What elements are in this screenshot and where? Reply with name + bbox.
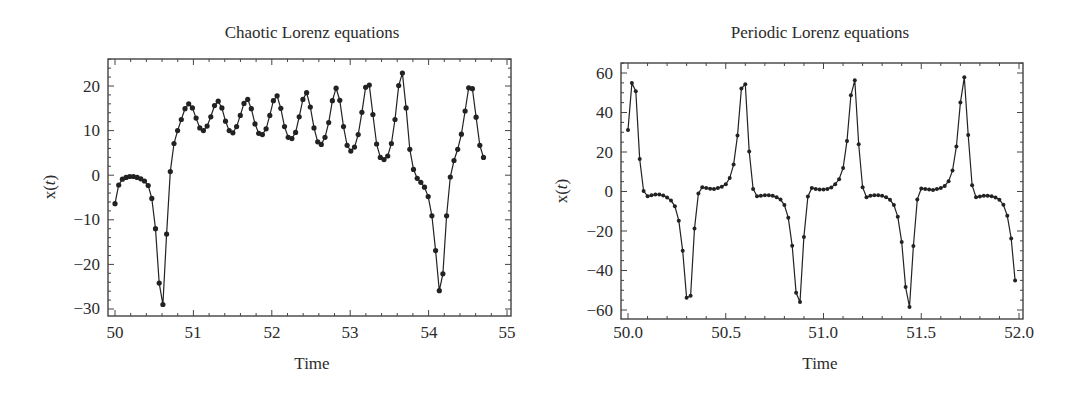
data-point [160,302,165,307]
data-point [861,185,865,189]
data-point [779,197,783,201]
y-label-prefix: x( [40,185,59,200]
data-point [833,182,837,186]
data-point [411,167,416,172]
data-series [112,71,486,308]
data-point [939,186,943,190]
data-point [771,194,775,198]
data-point [665,195,669,199]
y-tick-label: −30 [73,299,100,318]
data-point [304,90,309,95]
data-point [763,193,767,197]
y-tick-label: 20 [83,77,100,96]
data-point [732,163,736,167]
data-point [689,294,693,298]
data-point [142,178,147,183]
data-point [853,78,857,82]
data-point [345,143,350,148]
data-point [915,197,919,201]
data-point [407,147,412,152]
data-point [708,187,712,191]
data-point [374,141,379,146]
data-point [978,194,982,198]
data-point [653,193,657,197]
data-point [175,128,180,133]
data-point [182,106,187,111]
data-point [389,141,394,146]
data-point [790,244,794,248]
data-point [241,101,246,106]
data-point [888,198,892,202]
data-point [212,103,217,108]
data-point [223,119,228,124]
data-point [911,244,915,248]
y-axis-label: x(t) [552,179,571,204]
y-tick-labels: 60 40 20 0 −20 −40 −60 [586,64,613,320]
data-point [759,194,763,198]
chart-title: Chaotic Lorenz equations [225,23,400,42]
periodic-chart: Periodic Lorenz equations 50.0 50.5 51.0… [552,23,1034,373]
data-point [146,183,151,188]
data-point [782,203,786,207]
y-tick-label: −20 [586,222,613,241]
x-tick-label: 55 [499,323,516,342]
y-tick-labels: 20 10 0 −10 −20 −30 [73,77,100,318]
data-point [179,117,184,122]
data-point [657,193,661,197]
data-point [919,187,923,191]
data-point [1013,279,1017,283]
x-tick-labels: 50 51 52 53 54 55 [107,323,516,342]
series-line [628,77,1015,307]
data-point [868,194,872,198]
data-point [693,227,697,231]
data-point [951,169,955,173]
data-point [962,75,966,79]
data-point [970,183,974,187]
x-tick-label: 50.5 [711,323,741,342]
data-point [982,194,986,198]
data-point [168,169,173,174]
y-tick-label: −20 [73,255,100,274]
data-point [470,86,475,91]
data-point [219,105,224,110]
data-point [747,149,751,153]
data-point [943,184,947,188]
data-point [876,193,880,197]
data-point [459,132,464,137]
data-point [267,113,272,118]
data-point [974,195,978,199]
data-point [872,193,876,197]
data-point [264,126,269,131]
data-point [935,187,939,191]
data-point [348,149,353,154]
data-point [356,132,361,137]
data-point [319,142,324,147]
data-point [849,93,853,97]
data-point [171,141,176,146]
data-point [278,106,283,111]
data-point [700,185,704,189]
data-point [352,145,357,150]
plot-frame [621,63,1023,319]
data-point [786,216,790,220]
data-point [728,176,732,180]
series-line [115,73,484,304]
data-point [448,174,453,179]
data-point [642,189,646,193]
data-point [444,213,449,218]
data-point [190,105,195,110]
data-point [990,194,994,198]
data-point [927,188,931,192]
data-point [463,108,468,113]
data-point [422,185,427,190]
data-point [767,193,771,197]
y-tick-label: 0 [605,182,614,201]
data-point [958,101,962,105]
data-point [646,194,650,198]
data-point [841,166,845,170]
data-point [252,121,257,126]
data-point [308,104,313,109]
data-point [904,285,908,289]
data-point [650,193,654,197]
data-point [367,83,372,88]
